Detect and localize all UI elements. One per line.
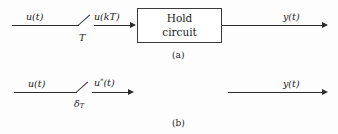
sampler-impulse-label-b: δT: [74, 99, 84, 110]
hold-block-line-1: Hold: [167, 12, 193, 25]
hold-block-line-2: circuit: [162, 26, 196, 39]
input-wire-b: [14, 92, 77, 93]
diagram-panel-a: Hold circuit u(t) T u(kT) y(t) (a): [0, 0, 338, 67]
output-arrowhead-a: [322, 22, 328, 28]
output-label-a: y(t): [283, 12, 300, 22]
sampled-signal-label-a: u(kT): [94, 12, 120, 22]
sampler-period-label-a: T: [79, 33, 85, 43]
sampler-switch-b: [76, 81, 89, 92]
input-wire-a: [12, 25, 79, 26]
output-wire-a: [222, 25, 324, 26]
sampled-signal-arg: (t): [103, 77, 114, 88]
input-label-a: u(t): [26, 12, 43, 22]
sampled-wire-b: [92, 92, 129, 93]
hold-circuit-block: Hold circuit: [137, 8, 222, 43]
input-arrowhead-b: [128, 89, 134, 95]
sampled-wire-a: [94, 25, 131, 26]
input-label-b: u(t): [28, 79, 45, 89]
diagram-panel-b: G0(s) = 1−e−sT s u(t) δT u*(t) y(t) (b): [0, 67, 338, 134]
output-arrowhead-b: [322, 89, 328, 95]
output-wire-b: [228, 92, 324, 93]
sampler-switch-a: [78, 14, 91, 25]
output-label-b: y(t): [283, 79, 300, 89]
sampled-signal-label-b: u*(t): [94, 78, 115, 88]
input-arrowhead-a: [130, 22, 136, 28]
panel-caption-b: (b): [172, 118, 185, 128]
sampler-impulse-sub: T: [80, 102, 84, 110]
block-diagram-figure: Hold circuit u(t) T u(kT) y(t) (a) G0(s)…: [0, 0, 338, 134]
panel-caption-a: (a): [172, 50, 184, 60]
